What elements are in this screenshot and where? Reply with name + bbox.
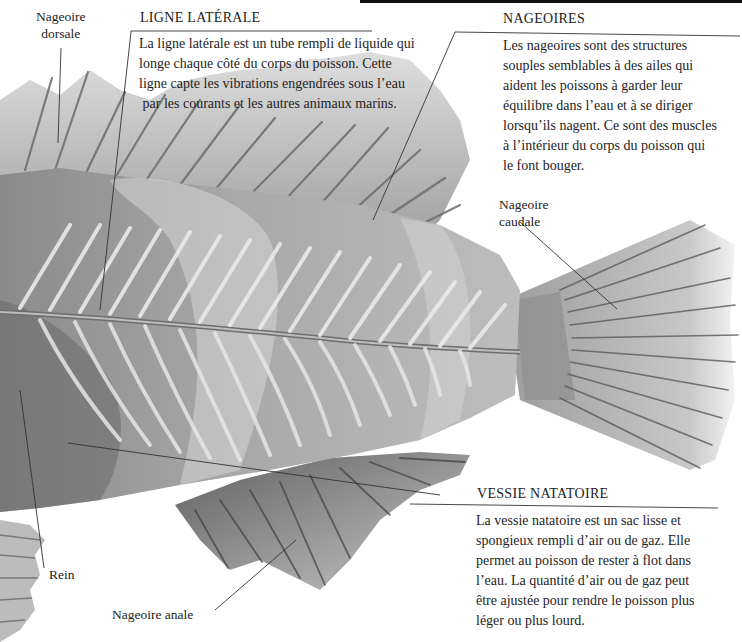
label-caudal-fin-line2: caudale	[499, 213, 548, 230]
label-kidney: Rein	[49, 566, 75, 583]
swim-bladder-text-line: spongieux rempli d’air ou de gaz. Elle	[476, 531, 742, 551]
lateral-line-text-line: ligne capte les vibrations engendrées so…	[139, 74, 539, 94]
fins-text-line: équilibre dans l’eau et à se diriger	[503, 96, 742, 116]
fins-text: Les nageoires sont des structures souple…	[503, 36, 742, 176]
swim-bladder-text-line: La vessie natatoire est un sac lisse et	[476, 511, 742, 531]
pelvic-fin	[0, 520, 45, 642]
swim-bladder-text-line: léger ou plus lourd.	[476, 611, 742, 631]
caudal-fin	[505, 220, 738, 470]
swim-bladder-heading: VESSIE NATATOIRE	[477, 486, 608, 502]
lateral-line-text-line: La ligne latérale est un tube rempli de …	[139, 34, 539, 54]
lateral-line-text-line: par les courants et les autres animaux m…	[139, 94, 539, 114]
label-dorsal-fin: Nageoire dorsale	[36, 8, 85, 42]
fins-text-line: aident les poissons à garder leur	[503, 76, 742, 96]
label-anal-fin: Nageoire anale	[112, 606, 193, 623]
fins-text-line: le font bouger.	[503, 156, 742, 176]
swim-bladder-text-line: être ajustée pour rendre le poisson plus	[476, 591, 742, 611]
fins-text-line: à l’intérieur du corps du poisson qui	[503, 136, 742, 156]
lateral-line-heading: LIGNE LATÉRALE	[140, 10, 260, 26]
swim-bladder-text-line: permet au poisson de rester à flot dans	[476, 551, 742, 571]
label-dorsal-fin-line2: dorsale	[36, 25, 85, 42]
label-caudal-fin: Nageoire caudale	[499, 196, 548, 230]
label-caudal-fin-line1: Nageoire	[499, 196, 548, 213]
lateral-line-text-line: longe chaque côté du corps du poisson. C…	[139, 54, 539, 74]
swim-bladder-text: La vessie natatoire est un sac lisse et …	[476, 511, 742, 631]
label-dorsal-fin-line1: Nageoire	[36, 8, 85, 25]
fins-text-line: lorsqu’ils nagent. Ce sont des muscles	[503, 116, 742, 136]
swim-bladder-text-line: l’eau. La quantité d’air ou de gaz peut	[476, 571, 742, 591]
lateral-line-text: La ligne latérale est un tube rempli de …	[139, 34, 539, 114]
fins-text-line: Les nageoires sont des structures	[503, 36, 742, 56]
fins-text-line: souples semblables à des ailes qui	[503, 56, 742, 76]
fins-heading: NAGEOIRES	[503, 11, 585, 27]
